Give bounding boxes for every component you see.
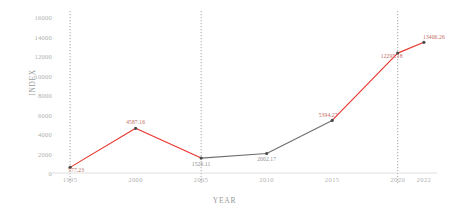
data-point-label: 4587.16	[126, 119, 145, 125]
data-point-label: 577.23	[68, 167, 84, 173]
data-point-label: 1526.11	[192, 161, 211, 167]
data-series-line	[70, 42, 424, 167]
gridlines	[70, 11, 398, 183]
chart-plot-area	[0, 0, 449, 213]
data-point-label: 13406.26	[423, 34, 445, 40]
chart-container: INDEX YEAR 02000400060008000100001200014…	[0, 0, 449, 213]
data-point-label: 5394.27	[319, 112, 338, 118]
data-point-markers	[69, 41, 426, 169]
data-point-label: 12295.18	[381, 53, 403, 59]
data-point-label: 2002.17	[257, 156, 276, 162]
